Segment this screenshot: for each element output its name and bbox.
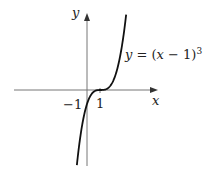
plot-area bbox=[0, 0, 212, 169]
cubic-graph: y x −1 1 y = (x − 1)3 bbox=[0, 0, 212, 169]
equation-label: y = (x − 1)3 bbox=[125, 47, 202, 61]
eq-x: x bbox=[157, 47, 164, 62]
y-axis-label: y bbox=[72, 6, 79, 19]
tick-label-1: 1 bbox=[96, 97, 104, 110]
eq-tail: − 1) bbox=[164, 47, 197, 62]
eq-rest: = ( bbox=[132, 47, 156, 62]
y-axis-arrow-icon bbox=[84, 13, 90, 21]
tick-label-neg1: −1 bbox=[63, 98, 82, 111]
x-axis-label: x bbox=[152, 94, 159, 107]
eq-exponent: 3 bbox=[196, 46, 202, 56]
